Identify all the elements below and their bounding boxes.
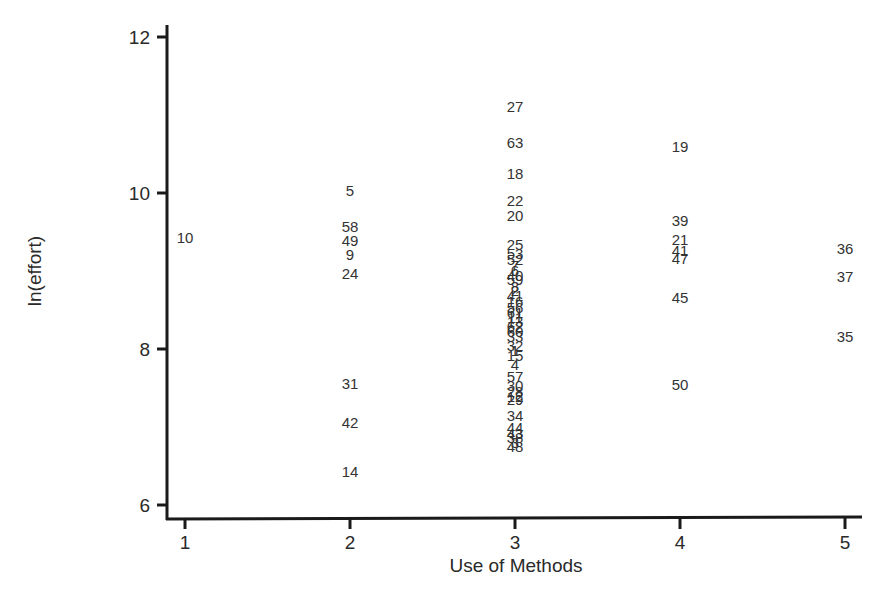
data-point-label: 36 [837,240,854,257]
y-tick-label: 10 [129,183,150,204]
data-point-label: 22 [507,192,524,209]
y-tick-label: 6 [139,495,150,516]
data-point-label: 20 [507,207,524,224]
x-axis-title: Use of Methods [449,555,582,576]
data-point-label: 24 [342,265,359,282]
data-point-label: 50 [672,376,689,393]
data-point-label: 9 [346,246,354,263]
data-point-label: 37 [837,268,854,285]
data-point-label: 35 [837,328,854,345]
data-point-label: 42 [342,414,359,431]
data-point-label: 18 [507,165,524,182]
x-tick-label: 5 [840,532,851,553]
data-point-label: 5 [346,182,354,199]
y-tick-label: 12 [129,27,150,48]
data-point-label: 14 [342,463,359,480]
data-point-labels: 1055849924314214276318222025535276405982… [177,98,854,480]
data-point-label: 31 [342,375,359,392]
data-point-label: 63 [507,134,524,151]
y-axis: 681012 [129,25,167,520]
data-point-label: 45 [672,289,689,306]
x-tick-label: 3 [510,532,521,553]
data-point-label: 19 [672,138,689,155]
x-tick-label: 1 [180,532,191,553]
data-point-label: 47 [672,250,689,267]
y-tick-label: 8 [139,339,150,360]
data-point-label: 10 [177,229,194,246]
data-point-label: 48 [507,438,524,455]
data-point-label: 29 [507,391,524,408]
x-axis: 12345 [166,517,862,553]
data-point-label: 27 [507,98,524,115]
scatter-chart: 681012 12345 Use of Methods ln(effort) 1… [0,0,882,592]
data-point-label: 39 [672,212,689,229]
x-tick-label: 4 [675,532,686,553]
y-axis-title: ln(effort) [24,236,45,306]
x-tick-label: 2 [345,532,356,553]
